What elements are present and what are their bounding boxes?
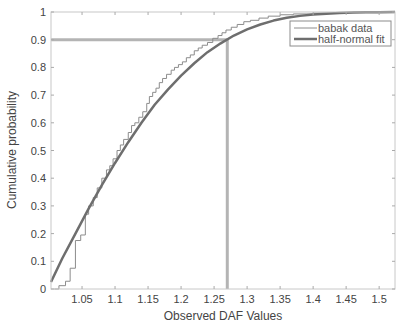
y-tick-label: 0.7 [31, 89, 46, 101]
figure-background [0, 0, 400, 326]
legend-label-half-normal-fit: half-normal fit [318, 33, 385, 45]
x-tick-label: 1.2 [173, 293, 188, 305]
y-tick-label: 0.8 [31, 61, 46, 73]
y-tick-label: 0.5 [31, 145, 46, 157]
x-axis-label: Observed DAF Values [164, 309, 283, 323]
x-tick-label: 1.45 [335, 293, 356, 305]
y-tick-label: 0 [40, 283, 46, 295]
x-tick-label: 1.1 [107, 293, 122, 305]
y-tick-label: 0.6 [31, 117, 46, 129]
cdf-chart: 1.051.11.151.21.251.31.351.41.451.5 00.1… [0, 0, 400, 326]
legend: babak data half-normal fit [290, 21, 391, 46]
x-tick-label: 1.25 [203, 293, 224, 305]
y-axis-label: Cumulative probability [5, 91, 19, 209]
y-tick-label: 0.2 [31, 228, 46, 240]
x-tick-label: 1.3 [239, 293, 254, 305]
y-tick-label: 0.9 [31, 34, 46, 46]
x-tick-label: 1.15 [137, 293, 158, 305]
y-tick-label: 0.1 [31, 255, 46, 267]
x-tick-label: 1.4 [305, 293, 320, 305]
y-tick-label: 0.3 [31, 200, 46, 212]
x-tick-label: 1.35 [269, 293, 290, 305]
x-tick-label: 1.05 [71, 293, 92, 305]
y-tick-label: 0.4 [31, 172, 46, 184]
x-tick-label: 1.5 [372, 293, 387, 305]
y-tick-label: 1 [40, 6, 46, 18]
